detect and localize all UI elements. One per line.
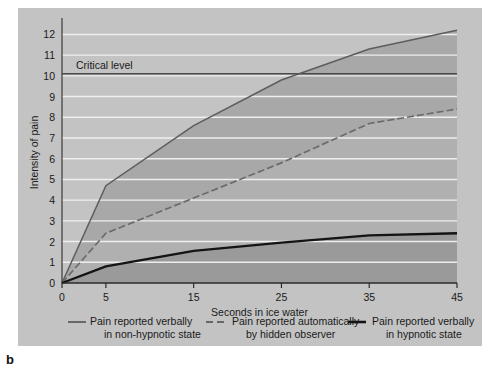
x-tick-label-25: 25 — [276, 291, 288, 303]
y-tick-label-1: 1 — [49, 256, 55, 268]
y-tick-label-10: 10 — [43, 70, 55, 82]
legend-label-0-line1: Pain reported verbally — [90, 315, 193, 327]
figure-part-label: b — [6, 352, 14, 367]
y-tick-label-11: 11 — [44, 49, 55, 61]
legend-label-1-line2: by hidden observer — [246, 328, 336, 340]
critical-level-label: Critical level — [76, 59, 133, 71]
y-tick-label-0: 0 — [49, 277, 55, 289]
y-tick-label-2: 2 — [49, 236, 55, 248]
x-tick-label-5: 5 — [103, 291, 109, 303]
y-tick-label-8: 8 — [49, 111, 55, 123]
legend-label-1-line1: Pain reported automatically — [232, 315, 360, 327]
legend-label-2-line2: in hypnotic state — [386, 328, 462, 340]
y-tick-label-9: 9 — [49, 91, 55, 103]
legend-label-2-line1: Pain reported verbally — [372, 315, 475, 327]
figure-container: Critical level01234567891011120515253545… — [0, 0, 496, 374]
y-tick-label-12: 12 — [43, 28, 55, 40]
x-tick-label-0: 0 — [59, 291, 65, 303]
x-tick-label-45: 45 — [451, 291, 463, 303]
y-tick-label-7: 7 — [49, 132, 55, 144]
legend-label-0-line2: in non-hypnotic state — [104, 328, 201, 340]
y-tick-label-3: 3 — [49, 215, 55, 227]
y-tick-label-4: 4 — [49, 194, 55, 206]
y-tick-label-6: 6 — [49, 153, 55, 165]
y-axis-title: Intensity of pain — [28, 116, 40, 190]
pain-intensity-chart: Critical level01234567891011120515253545… — [0, 0, 496, 374]
y-tick-label-5: 5 — [49, 173, 55, 185]
x-tick-label-35: 35 — [363, 291, 375, 303]
x-tick-label-15: 15 — [188, 291, 200, 303]
